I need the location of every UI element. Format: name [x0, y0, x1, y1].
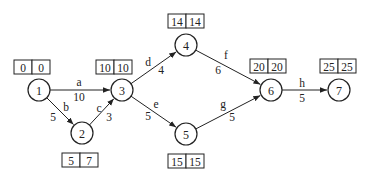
edge-b: b5: [47, 98, 74, 125]
earliest-time-value: 14: [171, 16, 183, 28]
edge-weight-label: 5: [145, 110, 151, 122]
time-box-6: 2020: [250, 59, 286, 73]
node-1: 1: [28, 79, 50, 101]
time-box-5: 1515: [168, 154, 204, 168]
edge-weight-label: 6: [215, 64, 221, 76]
edge-name-label: e: [153, 98, 158, 110]
edge-weight-label: 4: [158, 64, 164, 76]
latest-time-value: 14: [189, 16, 201, 28]
edge-name-label: h: [299, 77, 305, 89]
latest-time-value: 15: [189, 156, 201, 168]
time-box-4: 1414: [168, 14, 204, 28]
latest-time-value: 10: [117, 62, 129, 74]
edge-e: e5: [131, 96, 176, 127]
edge-name-label: d: [145, 56, 151, 68]
edge-a: a10: [50, 76, 110, 103]
node-5: 5: [175, 123, 197, 145]
earliest-time-value: 20: [253, 61, 265, 73]
edge-name-label: b: [63, 101, 69, 113]
edge-name-label: f: [224, 49, 228, 61]
latest-time-value: 25: [341, 61, 353, 73]
time-box-3: 1010: [96, 60, 132, 74]
edge-weight-label: 3: [106, 111, 112, 123]
node-label: 4: [183, 39, 189, 53]
earliest-time-value: 0: [20, 62, 26, 74]
earliest-time-value: 15: [171, 156, 183, 168]
node-4: 4: [175, 34, 197, 56]
earliest-time-value: 10: [99, 62, 111, 74]
edge-weight-label: 5: [299, 92, 305, 104]
time-box-2: 57: [62, 153, 98, 167]
edge-h: h5: [282, 77, 327, 104]
node-label: 3: [119, 84, 125, 98]
node-label: 1: [36, 84, 42, 98]
latest-time-value: 20: [271, 61, 283, 73]
edge-weight-label: 5: [50, 111, 56, 123]
edge-weight-label: 5: [229, 111, 235, 123]
time-box-7: 2525: [320, 59, 356, 73]
node-2: 2: [71, 122, 93, 144]
edge-arrow: [131, 52, 176, 84]
node-label: 2: [79, 127, 85, 141]
edge-g: g5: [196, 96, 261, 129]
edge-c: c3: [89, 99, 113, 125]
node-label: 5: [183, 128, 189, 142]
latest-time-value: 7: [86, 155, 92, 167]
network-diagram: a10b5c3d4e5f6g5h5 0057101014141515202025…: [0, 0, 367, 175]
earliest-time-value: 25: [323, 61, 335, 73]
time-box-1: 00: [14, 60, 50, 74]
edge-name-label: g: [220, 98, 226, 111]
edge-arrow: [196, 96, 261, 129]
diagram-svg: a10b5c3d4e5f6g5h5 0057101014141515202025…: [0, 0, 367, 175]
edge-d: d4: [131, 52, 176, 84]
edge-name-label: a: [76, 76, 81, 88]
node-3: 3: [111, 79, 133, 101]
latest-time-value: 0: [38, 62, 44, 74]
node-label: 6: [268, 84, 274, 98]
edge-name-label: c: [96, 102, 101, 114]
earliest-time-value: 5: [68, 155, 74, 167]
edge-weight-label: 10: [73, 91, 85, 103]
node-7: 7: [328, 79, 350, 101]
node-6: 6: [260, 79, 282, 101]
node-label: 7: [336, 84, 342, 98]
